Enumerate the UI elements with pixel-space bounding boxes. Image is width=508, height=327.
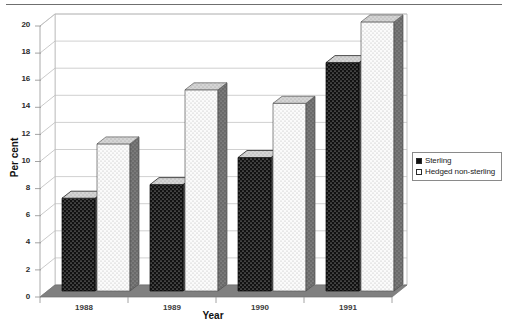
bar-1989-hedged (185, 83, 227, 291)
open-square-icon (416, 169, 422, 175)
legend-item-sterling[interactable]: Sterling (416, 155, 499, 166)
y-axis-title: Per cent (9, 128, 20, 188)
x-tick-label-1991: 1991 (325, 303, 371, 312)
legend-label-hedged-non-sterling: Hedged non-sterling (425, 167, 495, 176)
x-tick-label-1988: 1988 (61, 303, 107, 312)
y-tick-label-20: 20 (8, 20, 30, 29)
y-tick-label-14: 14 (8, 101, 30, 110)
y-tick-label-6: 6 (8, 210, 30, 219)
figure-container: 20 18 16 14 12 10 8 6 4 2 0 1988 1989 19… (0, 0, 508, 327)
chart-legend: Sterling Hedged non-sterling (412, 152, 502, 181)
legend-label-sterling: Sterling (425, 156, 451, 165)
bar-1988-hedged (97, 137, 139, 291)
legend-item-hedged-non-sterling[interactable]: Hedged non-sterling (416, 166, 499, 177)
bar-1991-hedged (361, 15, 403, 291)
plot-left-wall (40, 14, 55, 297)
filled-square-icon (416, 158, 422, 164)
x-axis-title: Year (178, 310, 248, 321)
y-tick-label-18: 18 (8, 47, 30, 56)
y-tick-label-2: 2 (8, 265, 30, 274)
y-tick-label-4: 4 (8, 237, 30, 246)
y-tick-label-0: 0 (8, 292, 30, 301)
y-tick-label-16: 16 (8, 74, 30, 83)
bar-1990-hedged (273, 96, 315, 291)
